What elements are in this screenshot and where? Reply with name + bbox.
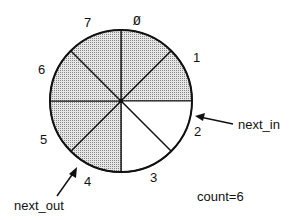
next-in-pointer: next_in [195,113,280,132]
circular-buffer-diagram: Ø 1 2 3 4 5 6 7 next_in next_out count=6 [0,0,294,220]
slot-label-1: 1 [193,50,200,65]
slot-label-4: 4 [84,174,91,189]
slot-label-2: 2 [194,124,201,139]
next-out-arrow-icon [57,172,74,196]
slot-label-6: 6 [38,62,45,77]
center-dot [119,99,123,103]
next-in-arrow-icon [200,117,233,124]
slot-label-5: 5 [40,132,47,147]
next-in-label: next_in [238,117,280,132]
next-out-pointer: next_out [14,167,77,213]
count-label: count=6 [197,189,244,204]
slot-label-0: Ø [133,13,141,28]
slot-label-7: 7 [84,15,91,30]
slot-label-3: 3 [150,170,157,185]
next-out-label: next_out [14,198,64,213]
